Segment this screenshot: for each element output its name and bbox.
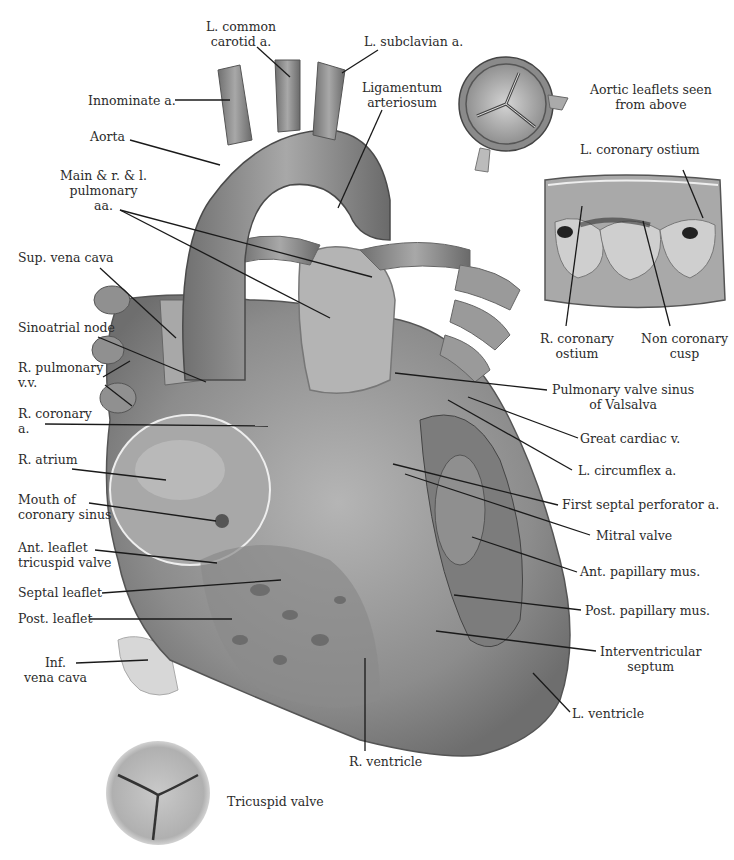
label-pulmonary-arteries: Main & r. & l. pulmonary aa. bbox=[60, 168, 147, 213]
heart-anatomy-figure: L. common carotid a. L. subclavian a. In… bbox=[0, 0, 734, 860]
label-l-ventricle: L. ventricle bbox=[572, 706, 644, 721]
label-sinoatrial-node: Sinoatrial node bbox=[18, 320, 115, 335]
label-aorta: Aorta bbox=[90, 129, 125, 144]
aortic-root-inset bbox=[545, 175, 725, 308]
label-r-ventricle: R. ventricle bbox=[349, 754, 422, 769]
label-r-pulmonary-veins: R. pulmonary v.v. bbox=[18, 360, 103, 390]
innominate-shape bbox=[218, 65, 252, 145]
label-ligamentum-arteriosum: Ligamentum arteriosum bbox=[362, 80, 442, 110]
label-sup-vena-cava: Sup. vena cava bbox=[18, 250, 113, 265]
label-r-atrium: R. atrium bbox=[18, 452, 78, 467]
aortic-leaflets-inset bbox=[459, 57, 568, 172]
label-mouth-coronary-sinus: Mouth of coronary sinus bbox=[18, 492, 111, 522]
label-l-subclavian: L. subclavian a. bbox=[364, 34, 463, 49]
label-interventricular-septum: Interventricular septum bbox=[600, 644, 701, 674]
subclavian-shape bbox=[313, 62, 345, 140]
label-pulmonary-valve-sinus: Pulmonary valve sinus of Valsalva bbox=[552, 382, 694, 412]
label-ant-papillary: Ant. papillary mus. bbox=[580, 564, 700, 579]
caption-aortic-leaflets: Aortic leaflets seen from above bbox=[590, 82, 712, 112]
label-inf-vena-cava: Inf. vena cava bbox=[24, 655, 87, 685]
label-r-coronary-artery: R. coronary a. bbox=[18, 406, 92, 436]
tricuspid-valve-inset bbox=[106, 741, 210, 845]
label-l-coronary-ostium: L. coronary ostium bbox=[580, 142, 700, 157]
label-mitral-valve: Mitral valve bbox=[596, 528, 672, 543]
label-great-cardiac-vein: Great cardiac v. bbox=[580, 431, 680, 446]
label-non-coronary-cusp: Non coronary cusp bbox=[641, 331, 728, 361]
label-post-papillary: Post. papillary mus. bbox=[585, 603, 710, 618]
caption-tricuspid-valve: Tricuspid valve bbox=[227, 794, 324, 809]
label-ant-leaflet-tricuspid: Ant. leaflet tricuspid valve bbox=[18, 540, 111, 570]
label-post-leaflet: Post. leaflet bbox=[18, 611, 92, 626]
label-r-coronary-ostium: R. coronary ostium bbox=[540, 331, 614, 361]
label-l-circumflex: L. circumflex a. bbox=[578, 463, 676, 478]
label-first-septal-perforator: First septal perforator a. bbox=[562, 497, 719, 512]
label-innominate: Innominate a. bbox=[88, 93, 176, 108]
label-l-common-carotid: L. common carotid a. bbox=[206, 19, 276, 49]
coronary-sinus-mouth bbox=[215, 514, 229, 528]
label-septal-leaflet: Septal leaflet bbox=[18, 585, 102, 600]
carotid-shape bbox=[275, 60, 300, 132]
